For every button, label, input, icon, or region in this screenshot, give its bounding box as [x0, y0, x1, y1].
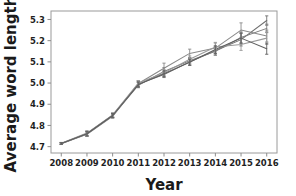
y-tick-label: 5.0	[30, 78, 45, 88]
x-tick-label: 2013	[178, 158, 202, 168]
x-tick-label: 2016	[255, 158, 279, 168]
x-tick-label: 2012	[152, 158, 176, 168]
x-tick-label: 2011	[126, 158, 150, 168]
y-axis-title: Average word length	[2, 0, 20, 172]
chart-figure: 2008200920102011201220132014201520164.74…	[0, 0, 296, 196]
y-tick-label: 4.8	[30, 121, 45, 131]
x-tick-label: 2008	[49, 158, 73, 168]
line-chart: 2008200920102011201220132014201520164.74…	[0, 0, 296, 196]
x-tick-label: 2009	[75, 158, 99, 168]
x-tick-label: 2015	[229, 158, 253, 168]
y-tick-label: 4.7	[30, 142, 45, 152]
y-tick-label: 5.2	[30, 36, 45, 46]
x-tick-label: 2014	[204, 158, 228, 168]
y-tick-label: 5.3	[30, 15, 45, 25]
y-tick-label: 4.9	[30, 99, 45, 109]
x-tick-label: 2010	[101, 158, 125, 168]
x-axis-title: Year	[144, 176, 183, 194]
y-tick-label: 5.1	[30, 57, 45, 67]
